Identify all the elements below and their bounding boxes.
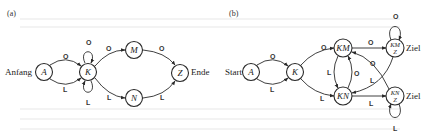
- edge-m-to-z: [143, 50, 175, 65]
- edge-label: L: [86, 99, 91, 106]
- edge-k-to-km: [301, 48, 334, 65]
- end-label-ende: Ende: [191, 67, 210, 77]
- edge-k-to-kn: [301, 79, 334, 96]
- goal-label-top: Ziel: [406, 43, 421, 53]
- svg-text:M: M: [129, 45, 138, 55]
- edge-label: O: [106, 45, 112, 52]
- edge-label: L: [327, 69, 332, 76]
- edge-k-loop-bottom: [83, 81, 92, 92]
- panel-a-tag: (a): [7, 9, 16, 18]
- edge-k-loop-top: [83, 52, 92, 63]
- edge-label: L: [107, 94, 112, 101]
- goal-label-bottom: Ziel: [406, 91, 421, 101]
- start-label-anfang: Anfang: [5, 67, 32, 77]
- edge-kmz-loop: [390, 27, 401, 41]
- edge-label: O: [63, 53, 69, 60]
- state-node-k: K: [287, 64, 304, 81]
- edge-a-to-k-bottom: [257, 78, 288, 84]
- panel-a: (a) Anfang Ende O L O L O L O L A K M: [5, 9, 210, 107]
- edge-label: L: [160, 94, 165, 101]
- edge-label: O: [370, 60, 376, 67]
- edge-label: O: [321, 44, 327, 51]
- edge-label: L: [320, 95, 325, 102]
- edge-label: L: [63, 86, 68, 93]
- edge-label: L: [393, 125, 398, 132]
- background-bleed-through: [20, 18, 400, 130]
- state-node-z: Z: [172, 65, 189, 82]
- state-node-km: KM: [334, 39, 352, 57]
- edge-label: O: [270, 53, 276, 60]
- svg-text:KM: KM: [389, 41, 400, 48]
- svg-text:A: A: [40, 67, 47, 77]
- edge-label: L: [270, 86, 275, 93]
- edge-a-to-k-bottom: [50, 78, 81, 84]
- edge-label: O: [354, 70, 360, 77]
- edge-knz-loop: [390, 104, 401, 118]
- svg-text:KN: KN: [336, 91, 350, 101]
- edge-k-to-m: [95, 50, 125, 66]
- state-node-a: A: [243, 64, 260, 81]
- svg-text:KN: KN: [390, 89, 400, 96]
- edge-a-to-k-top: [257, 60, 288, 66]
- edge-km-to-kn: [334, 56, 338, 88]
- svg-text:Z: Z: [393, 96, 397, 103]
- edge-label: L: [369, 100, 374, 107]
- state-node-kn-z-goal: KN Z: [386, 87, 404, 105]
- state-node-kn: KN: [334, 87, 352, 105]
- state-node-m: M: [126, 42, 143, 59]
- state-diagram-canvas: (a) Anfang Ende O L O L O L O L A K M: [0, 0, 425, 136]
- svg-text:A: A: [247, 67, 254, 77]
- edge-n-to-z: [143, 81, 175, 98]
- state-node-a: A: [36, 64, 53, 81]
- panel-b-tag: (b): [229, 9, 239, 18]
- edge-label: O: [159, 45, 165, 52]
- edge-label: O: [86, 39, 92, 46]
- start-label: Start: [225, 67, 242, 77]
- svg-text:N: N: [130, 93, 138, 103]
- svg-text:Z: Z: [393, 48, 397, 55]
- svg-text:K: K: [84, 67, 92, 77]
- edge-kn-to-km: [348, 56, 352, 88]
- edge-label: L: [370, 77, 375, 84]
- state-node-km-z-goal: KM Z: [386, 39, 404, 57]
- svg-text:K: K: [291, 67, 299, 77]
- state-node-n: N: [126, 90, 143, 107]
- state-node-k: K: [80, 64, 97, 81]
- edge-label: O: [393, 13, 399, 20]
- edge-label: O: [368, 39, 374, 46]
- svg-text:KM: KM: [335, 43, 350, 53]
- edge-a-to-k-top: [50, 60, 81, 66]
